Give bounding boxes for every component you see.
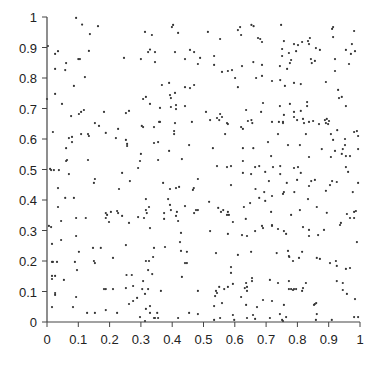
- data-point: [283, 304, 285, 306]
- x-axis-ticks: 00.10.20.30.40.50.60.70.80.91: [43, 322, 363, 347]
- data-point: [149, 312, 151, 314]
- y-tick-label: 0.6: [19, 132, 37, 147]
- data-point: [252, 147, 254, 149]
- data-point: [173, 130, 175, 132]
- data-point: [251, 122, 253, 124]
- data-point: [242, 128, 244, 130]
- data-point: [330, 156, 332, 158]
- data-point: [252, 314, 254, 316]
- data-point: [315, 47, 317, 49]
- data-point: [342, 148, 344, 150]
- x-tick-label: 0.4: [163, 332, 181, 347]
- data-point: [125, 244, 127, 246]
- data-point: [237, 254, 239, 256]
- data-point: [54, 292, 56, 294]
- data-point: [316, 206, 318, 208]
- data-point: [153, 142, 155, 144]
- data-point: [167, 198, 169, 200]
- data-point: [293, 116, 295, 118]
- data-point: [140, 58, 142, 60]
- data-point: [290, 214, 292, 216]
- data-point: [169, 188, 171, 190]
- data-point: [105, 217, 107, 219]
- data-point: [272, 166, 274, 168]
- data-point: [214, 295, 216, 297]
- data-point: [180, 232, 182, 234]
- data-point: [297, 166, 299, 168]
- data-point: [50, 169, 52, 171]
- data-point: [145, 96, 147, 98]
- data-point: [68, 173, 70, 175]
- data-point: [251, 280, 253, 282]
- data-point: [283, 40, 285, 42]
- data-point: [169, 204, 171, 206]
- data-point: [216, 292, 218, 294]
- data-point: [53, 169, 55, 171]
- data-point: [293, 82, 295, 84]
- data-point: [103, 288, 105, 290]
- data-point: [329, 262, 331, 264]
- data-point: [231, 69, 233, 71]
- data-point: [146, 212, 148, 214]
- data-point: [147, 51, 149, 53]
- data-point: [349, 267, 351, 269]
- data-point: [240, 34, 242, 36]
- data-point: [175, 187, 177, 189]
- data-point: [252, 61, 254, 63]
- x-tick-label: 0.5: [194, 332, 212, 347]
- data-point: [296, 179, 298, 181]
- data-point: [140, 153, 142, 155]
- data-point: [268, 180, 270, 182]
- data-point: [164, 246, 166, 248]
- data-point: [74, 261, 76, 263]
- data-point: [254, 166, 256, 168]
- data-point: [259, 38, 261, 40]
- data-point: [65, 62, 67, 64]
- data-point: [217, 207, 219, 209]
- data-point: [181, 158, 183, 160]
- data-point: [230, 272, 232, 274]
- data-point: [283, 114, 285, 116]
- data-point: [218, 286, 220, 288]
- data-point: [300, 172, 302, 174]
- data-point: [84, 76, 86, 78]
- data-point: [282, 193, 284, 195]
- data-point: [241, 65, 243, 67]
- data-point: [105, 212, 107, 214]
- data-point: [184, 58, 186, 60]
- data-point: [147, 269, 149, 271]
- data-point: [197, 178, 199, 180]
- data-point: [71, 136, 73, 138]
- data-point: [116, 312, 118, 314]
- data-point: [57, 206, 59, 208]
- data-point: [148, 206, 150, 208]
- data-point: [254, 230, 256, 232]
- data-point: [287, 250, 289, 252]
- data-point: [286, 68, 288, 70]
- data-point: [144, 293, 146, 295]
- data-point: [219, 113, 221, 115]
- data-points: [46, 17, 359, 322]
- data-point: [149, 49, 151, 51]
- data-point: [280, 24, 282, 26]
- data-point: [262, 102, 264, 104]
- data-point: [209, 230, 211, 232]
- data-point: [87, 159, 89, 161]
- data-point: [126, 145, 128, 147]
- data-point: [289, 103, 291, 105]
- data-point: [250, 251, 252, 253]
- x-tick-label: 0.9: [320, 332, 338, 347]
- data-point: [326, 118, 328, 120]
- data-point: [261, 225, 263, 227]
- data-point: [227, 233, 229, 235]
- data-point: [246, 286, 248, 288]
- data-point: [76, 269, 78, 271]
- data-point: [337, 89, 339, 91]
- data-point: [293, 111, 295, 113]
- data-point: [257, 37, 259, 39]
- data-point: [276, 252, 278, 254]
- data-point: [353, 217, 355, 219]
- data-point: [174, 122, 176, 124]
- data-point: [110, 211, 112, 213]
- data-point: [209, 119, 211, 121]
